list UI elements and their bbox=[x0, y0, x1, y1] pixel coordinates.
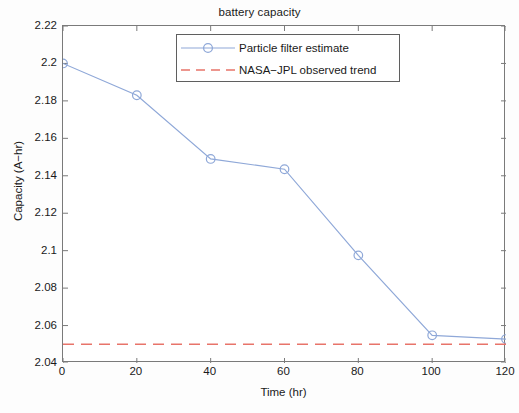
legend-swatch-line-marker-icon bbox=[177, 38, 239, 58]
y-tick-label: 2.1 bbox=[41, 244, 57, 256]
legend-label: Particle filter estimate bbox=[239, 42, 349, 54]
chart-figure: battery capacity 2.042.062.082.12.122.14… bbox=[0, 0, 519, 413]
x-tick-label: 20 bbox=[129, 365, 142, 377]
y-axis-label: Capacity (A−hr) bbox=[12, 111, 24, 251]
y-tick-label: 2.12 bbox=[35, 206, 57, 218]
chart-legend: Particle filter estimate NASA−JPL observ… bbox=[176, 34, 400, 82]
series-line-0 bbox=[63, 63, 506, 339]
y-tick-label: 2.18 bbox=[35, 94, 57, 106]
y-tick-label: 2.14 bbox=[35, 169, 57, 181]
legend-label: NASA−JPL observed trend bbox=[239, 64, 376, 76]
x-tick-label: 40 bbox=[203, 365, 216, 377]
chart-title: battery capacity bbox=[0, 6, 519, 18]
x-axis-label: Time (hr) bbox=[62, 386, 505, 398]
y-tick-label: 2.22 bbox=[35, 19, 57, 31]
legend-entry-particle-filter-estimate: Particle filter estimate bbox=[177, 36, 401, 59]
x-tick-label: 80 bbox=[351, 365, 364, 377]
y-tick-label: 2.08 bbox=[35, 281, 57, 293]
y-tick-label: 2.16 bbox=[35, 131, 57, 143]
y-tick-label: 2.2 bbox=[41, 56, 57, 68]
legend-entry-nasa-jpl-observed-trend: NASA−JPL observed trend bbox=[177, 58, 401, 81]
y-axis-tick-labels: 2.042.062.082.12.122.142.162.182.22.22 bbox=[0, 0, 57, 413]
x-tick-label: 60 bbox=[277, 365, 290, 377]
y-tick-label: 2.04 bbox=[35, 356, 57, 368]
x-tick-label: 0 bbox=[59, 365, 65, 377]
x-tick-label: 100 bbox=[422, 365, 441, 377]
y-tick-label: 2.06 bbox=[35, 319, 57, 331]
legend-swatch-dashed-line-icon bbox=[177, 60, 239, 80]
x-tick-label: 120 bbox=[495, 365, 514, 377]
